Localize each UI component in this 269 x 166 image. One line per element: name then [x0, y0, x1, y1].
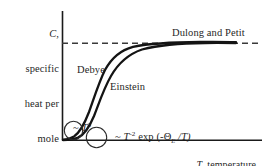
- x-axis-label: T, temperature: [186, 148, 256, 166]
- debye-curve-label: Debye: [77, 64, 105, 76]
- exp-tail: /T): [175, 131, 190, 142]
- low-temperature-debye-annotation: ~ T3: [62, 110, 91, 145]
- y-axis-label-line-1: C,: [2, 28, 59, 40]
- y-axis-label-line-4: mole: [2, 133, 59, 145]
- y-axis-label-line-2: specific: [2, 63, 59, 75]
- specific-heat-figure: C, specific heat per mole T, temperature…: [0, 0, 269, 166]
- einstein-curve-label: Einstein: [110, 81, 145, 93]
- y-axis-label-line-3: heat per: [2, 98, 59, 110]
- exp-open: exp (-: [136, 131, 164, 142]
- x-axis-symbol-suffix: , temperature: [202, 159, 256, 166]
- low-temperature-einstein-annotation: ~ T-2 exp (-ΘE /T): [104, 119, 191, 154]
- dulong-petit-label: Dulong and Petit: [172, 27, 245, 39]
- y-axis-symbol-suffix: ,: [56, 28, 59, 39]
- y-axis-label: C, specific heat per mole: [2, 4, 59, 166]
- t-exponent: 3: [87, 120, 91, 128]
